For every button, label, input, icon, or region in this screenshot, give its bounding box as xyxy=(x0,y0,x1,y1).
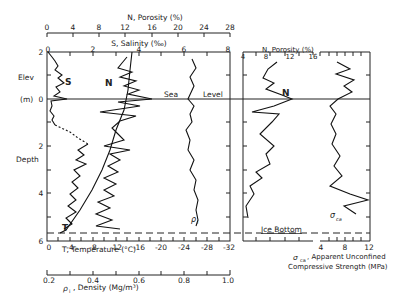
s-curve-label: S xyxy=(65,77,71,87)
density-subscript: i xyxy=(69,288,70,294)
svg-text:0.8: 0.8 xyxy=(178,276,190,285)
svg-text:-16: -16 xyxy=(133,243,145,252)
sigma-symbol: σ xyxy=(293,253,298,262)
svg-text:20: 20 xyxy=(173,23,183,32)
salinity-curve xyxy=(48,52,67,125)
strength-curve xyxy=(330,62,368,214)
svg-text:6: 6 xyxy=(39,237,44,246)
svg-text:-32: -32 xyxy=(223,243,235,252)
t-curve-label: T xyxy=(62,223,69,233)
sea-label: Sea xyxy=(164,90,178,99)
svg-text:0: 0 xyxy=(45,23,50,32)
density-curve xyxy=(186,59,198,226)
svg-text:2: 2 xyxy=(39,48,44,57)
svg-text:0.6: 0.6 xyxy=(133,276,145,285)
svg-text:16: 16 xyxy=(147,23,157,32)
svg-text:0: 0 xyxy=(39,95,44,104)
svg-text:0.2: 0.2 xyxy=(43,276,55,285)
svg-text:8: 8 xyxy=(226,45,231,54)
top-porosity-label: N, Porosity (%) xyxy=(127,13,183,22)
salinity-curve-dashed xyxy=(55,125,88,144)
svg-text:0.4: 0.4 xyxy=(87,276,99,285)
svg-text:4: 4 xyxy=(241,53,246,61)
svg-text:8: 8 xyxy=(343,243,348,252)
right-strength-frame xyxy=(320,52,370,241)
density-symbol: ρ xyxy=(63,284,68,293)
svg-text:12: 12 xyxy=(286,53,295,61)
svg-text:-4: -4 xyxy=(66,243,74,252)
right-n-frame xyxy=(243,52,313,241)
svg-text:-24: -24 xyxy=(178,243,190,252)
elev-label: Elev xyxy=(18,73,34,82)
svg-text:0: 0 xyxy=(46,45,51,54)
svg-text:4: 4 xyxy=(137,45,142,54)
ice-bottom-label: Ice Bottom xyxy=(261,225,302,234)
rho-curve-label: ρ xyxy=(191,215,196,224)
svg-text:4: 4 xyxy=(71,23,76,32)
svg-text:24: 24 xyxy=(199,23,209,32)
svg-text:-20: -20 xyxy=(155,243,167,252)
svg-text:0: 0 xyxy=(47,243,52,252)
ice-profile-figure: N, Porosity (%) S, Salinity (‰) Elev (m)… xyxy=(0,0,413,306)
svg-text:i: i xyxy=(197,219,199,225)
level-label: Level xyxy=(203,90,223,99)
svg-text:28: 28 xyxy=(225,23,235,32)
strength-label-2: Compressive Strength (MPa) xyxy=(288,263,388,271)
svg-text:6: 6 xyxy=(182,45,187,54)
svg-text:16: 16 xyxy=(309,53,318,61)
strength-label-1: , Apparent Unconfined xyxy=(307,253,386,261)
svg-text:2: 2 xyxy=(91,45,96,54)
svg-text:4: 4 xyxy=(319,243,324,252)
svg-text:12: 12 xyxy=(120,23,130,32)
svg-text:8: 8 xyxy=(264,53,268,61)
axis-ticks xyxy=(47,33,370,275)
n-curve-label: N xyxy=(105,78,113,88)
m-label: (m) xyxy=(20,95,33,104)
tick-labels: 0 4 8 12 16 20 24 28 0 2 4 6 8 2 0 2 4 6… xyxy=(39,23,374,285)
svg-text:2: 2 xyxy=(39,142,44,151)
right-n-label: N xyxy=(282,88,290,98)
svg-text:1.0: 1.0 xyxy=(222,276,234,285)
svg-text:8: 8 xyxy=(97,23,102,32)
depth-label: Depth xyxy=(16,155,39,164)
right-porosity-curve xyxy=(246,62,292,218)
svg-text:12: 12 xyxy=(364,243,374,252)
svg-text:-12: -12 xyxy=(110,243,122,252)
density-label: , Density (Mg/m³) xyxy=(73,283,139,292)
svg-text:4: 4 xyxy=(39,189,44,198)
svg-text:-28: -28 xyxy=(201,243,213,252)
svg-text:ca: ca xyxy=(336,216,342,222)
svg-text:-8: -8 xyxy=(89,243,97,252)
